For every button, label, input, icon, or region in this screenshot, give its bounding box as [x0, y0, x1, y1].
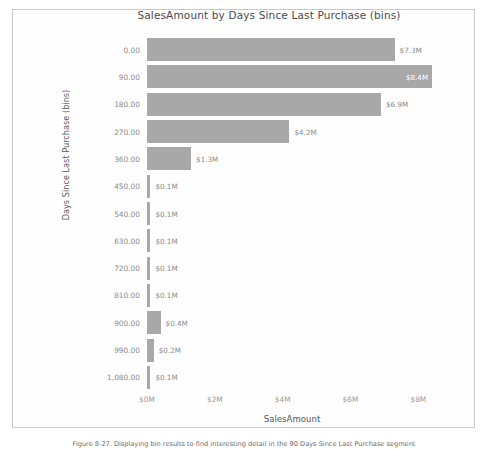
bar[interactable]	[147, 38, 395, 61]
bar-row[interactable]: 540.00$0.1M	[147, 200, 437, 227]
category-label: 450.00	[114, 182, 140, 191]
bar[interactable]	[147, 65, 432, 88]
category-label: 540.00	[114, 209, 140, 218]
x-axis-title: SalesAmount	[147, 414, 437, 424]
bar-value-label: $4.2M	[294, 127, 316, 136]
bar[interactable]	[147, 229, 150, 252]
category-label: 360.00	[114, 154, 140, 163]
bar[interactable]	[147, 202, 150, 225]
bar-row[interactable]: 90.00$8.4M	[147, 63, 437, 90]
bar-row[interactable]: 1,080.00$0.1M	[147, 364, 437, 391]
bar-row[interactable]: 720.00$0.1M	[147, 255, 437, 282]
category-label: 630.00	[114, 236, 140, 245]
category-label: 270.00	[114, 127, 140, 136]
category-label: 180.00	[114, 100, 140, 109]
plot-area: 0.00$7.3M90.00$8.4M180.00$6.9M270.00$4.2…	[147, 36, 437, 391]
x-axis-tick-labels: $0M$2M$4M$6M$8M	[147, 395, 437, 409]
x-tick-label: $2M	[207, 395, 223, 404]
bar[interactable]	[147, 311, 161, 334]
bar[interactable]	[147, 339, 154, 362]
bar[interactable]	[147, 366, 150, 389]
bar-value-label: $8.4M	[406, 72, 428, 81]
bar-value-label: $0.1M	[155, 209, 177, 218]
category-label: 1,080.00	[107, 373, 140, 382]
bar-row[interactable]: 810.00$0.1M	[147, 282, 437, 309]
bar[interactable]	[147, 147, 191, 170]
y-axis-title: Days Since Last Purchase (bins)	[61, 85, 71, 225]
bar-row[interactable]: 450.00$0.1M	[147, 173, 437, 200]
x-tick-label: $0M	[139, 395, 155, 404]
bar-value-label: $0.1M	[155, 291, 177, 300]
x-tick-label: $8M	[410, 395, 426, 404]
x-tick-label: $6M	[343, 395, 359, 404]
bar-row[interactable]: 630.00$0.1M	[147, 227, 437, 254]
category-label: 90.00	[119, 72, 140, 81]
category-label: 990.00	[114, 346, 140, 355]
bar-value-label: $0.2M	[159, 346, 181, 355]
category-label: 720.00	[114, 264, 140, 273]
bar[interactable]	[147, 175, 150, 198]
bar[interactable]	[147, 120, 289, 143]
figure-caption: Figure 8-27. Displaying bin results to f…	[0, 440, 488, 449]
bar[interactable]	[147, 257, 150, 280]
bar-row[interactable]: 180.00$6.9M	[147, 91, 437, 118]
bar-value-label: $0.1M	[155, 373, 177, 382]
bar[interactable]	[147, 284, 150, 307]
category-label: 0.00	[124, 45, 140, 54]
bar[interactable]	[147, 93, 381, 116]
bar-row[interactable]: 900.00$0.4M	[147, 309, 437, 336]
category-label: 810.00	[114, 291, 140, 300]
category-label: 900.00	[114, 318, 140, 327]
bar-value-label: $0.4M	[166, 318, 188, 327]
bar-row[interactable]: 360.00$1.3M	[147, 145, 437, 172]
chart-title: SalesAmount by Days Since Last Purchase …	[0, 9, 488, 21]
bar-value-label: $1.3M	[196, 154, 218, 163]
x-tick-label: $4M	[275, 395, 291, 404]
bar-value-label: $7.3M	[400, 45, 422, 54]
bar-value-label: $0.1M	[155, 264, 177, 273]
bar-value-label: $6.9M	[386, 100, 408, 109]
bar-value-label: $0.1M	[155, 236, 177, 245]
bar-value-label: $0.1M	[155, 182, 177, 191]
bar-row[interactable]: 0.00$7.3M	[147, 36, 437, 63]
bar-row[interactable]: 270.00$4.2M	[147, 118, 437, 145]
bar-row[interactable]: 990.00$0.2M	[147, 337, 437, 364]
